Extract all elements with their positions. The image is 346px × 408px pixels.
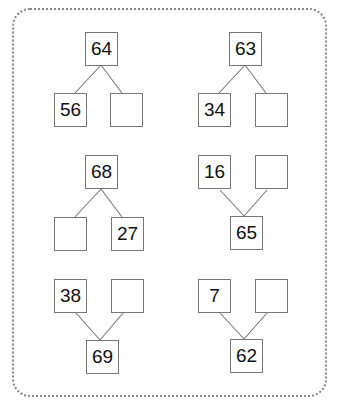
puzzle-3-whole: 68 [85, 155, 118, 189]
puzzle-4-part-left: 16 [198, 155, 231, 189]
puzzle-6-part-right-blank[interactable] [255, 279, 288, 313]
puzzle-3-part-left-blank[interactable] [54, 217, 87, 251]
puzzle-5-part-right-blank[interactable] [111, 279, 144, 313]
connector-lines [0, 0, 346, 408]
puzzle-5-part-left: 38 [54, 279, 87, 313]
puzzle-4-part-right-blank[interactable] [255, 155, 288, 189]
puzzle-1-part-left: 56 [54, 93, 87, 127]
puzzle-5-whole: 69 [86, 340, 119, 374]
puzzle-2-part-left: 34 [198, 93, 231, 127]
puzzle-1-whole: 64 [85, 32, 118, 66]
puzzle-6-part-left: 7 [198, 279, 231, 313]
puzzle-4-whole: 65 [230, 216, 263, 250]
puzzle-2-whole: 63 [229, 32, 262, 66]
puzzle-6-whole: 62 [230, 339, 263, 373]
puzzle-1-part-right-blank[interactable] [110, 93, 143, 127]
puzzle-2-part-right-blank[interactable] [255, 93, 288, 127]
puzzle-3-part-right: 27 [111, 217, 144, 251]
